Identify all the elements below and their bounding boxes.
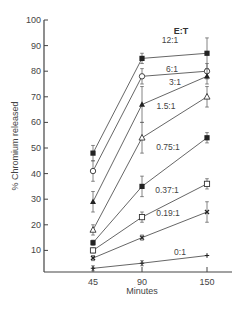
series-line [93,184,207,251]
y-tick-label: 20 [31,220,41,230]
y-axis-title: % Chromium released [10,101,20,190]
series-label: 3:1 [169,77,181,87]
series-line [93,212,207,258]
plus-marker [91,266,95,270]
series-label: 12:1 [162,35,179,45]
y-tick-label: 70 [31,92,41,102]
open-triangle-marker [90,227,96,233]
series-0-75-1 [90,133,209,246]
y-tick-label: 50 [31,143,41,153]
open-triangle-marker [204,94,210,100]
series-0-37-1 [90,179,209,253]
series-6-1 [90,64,209,182]
series-0-19-1 [91,202,209,261]
labels-layer: 12:16:13:11.5:10.75:10.37:10.19:10:1 [155,35,186,257]
series-label: 0.75:1 [156,142,180,152]
series-line [93,138,207,243]
series-line [93,256,207,269]
series-line [93,97,207,230]
series-label: 0:1 [174,247,186,257]
y-tick-label: 100 [26,15,41,25]
open-square-marker [139,215,144,220]
series-3-1 [90,69,210,212]
series-label: 1.5:1 [157,101,176,111]
open-circle-marker [90,168,95,173]
plus-marker [205,253,209,257]
plus-marker [140,261,144,265]
filled-square-marker [204,51,209,56]
series-layer [90,38,210,271]
filled-square-marker [204,135,209,140]
chromium-release-chart: 1020304050607080901004590150 12:16:13:11… [0,0,248,311]
series-line [93,71,207,171]
open-circle-marker [139,74,144,79]
filled-square-marker [90,240,95,245]
open-square-marker [204,181,209,186]
x-tick-label: 150 [199,277,214,287]
y-tick-label: 80 [31,66,41,76]
x-axis-title: Minutes [126,286,158,296]
series-0-1 [91,253,209,271]
open-square-marker [90,248,95,253]
y-tick-label: 40 [31,169,41,179]
axes: 1020304050607080901004590150 [26,15,232,287]
series-line [93,76,207,201]
y-tick-label: 90 [31,41,41,51]
y-tick-label: 10 [31,245,41,255]
filled-triangle-marker [90,198,96,204]
y-tick-label: 30 [31,194,41,204]
filled-square-marker [139,56,144,61]
filled-square-marker [139,184,144,189]
filled-triangle-marker [204,73,210,79]
series-label: 6:1 [166,64,178,74]
y-tick-label: 60 [31,117,41,127]
x-tick-label: 45 [88,277,98,287]
filled-square-marker [90,151,95,156]
series-label: 0.19:1 [156,208,180,218]
series-label: 0.37:1 [155,185,179,195]
legend-title: E:T [174,26,189,36]
open-triangle-marker [139,134,145,140]
